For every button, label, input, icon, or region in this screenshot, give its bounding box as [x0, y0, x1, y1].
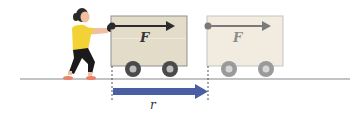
person-figure	[63, 8, 115, 80]
force-label-initial: F	[140, 31, 149, 44]
displacement-label: r	[150, 99, 156, 112]
cart-final	[205, 16, 284, 77]
wheel-icon	[258, 61, 274, 77]
work-diagram: F F r	[0, 0, 364, 117]
cart-initial	[109, 16, 188, 77]
diagram-canvas	[0, 0, 364, 117]
wheel-icon	[221, 61, 237, 77]
wheel-icon	[125, 61, 141, 77]
displacement-arrow	[113, 84, 208, 99]
wheel-icon	[162, 61, 178, 77]
force-label-final: F	[233, 31, 242, 44]
